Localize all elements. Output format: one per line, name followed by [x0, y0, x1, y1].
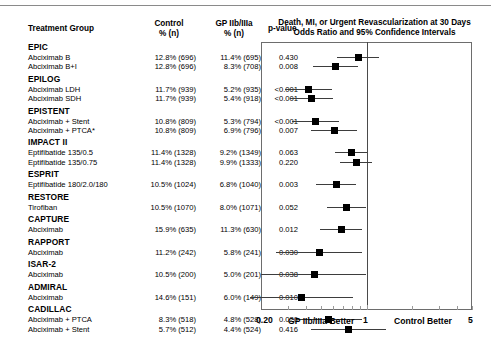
gp-value: 6.8% (1040): [199, 180, 261, 189]
column-header-control-line1: Control: [138, 19, 200, 29]
axis-tick: [288, 306, 289, 310]
axis-label-gp-better: GP IIb/IIIa Better: [288, 316, 354, 326]
column-header-control: Control % (n): [138, 19, 200, 38]
axis-tick: [472, 306, 473, 310]
control-value: 10.5% (200): [134, 270, 196, 279]
trial-name: EPIC: [28, 42, 48, 52]
trial-name: ISAR-2: [28, 259, 56, 269]
control-value: 10.5% (1024): [134, 180, 196, 189]
axis-tick: [321, 306, 322, 310]
arm-label: Tirofiban: [28, 203, 57, 212]
axis-tick: [343, 306, 344, 310]
plot-title-line2: Odds Ratio and 95% Confidence Intervals: [258, 28, 491, 38]
plot-title-line1: Death, MI, or Urgent Revascularization a…: [258, 18, 491, 28]
arm-label: Abciximab + PTCA*: [28, 126, 95, 135]
odds-ratio-marker: [333, 181, 340, 188]
trial-name: CAPTURE: [28, 214, 69, 224]
arm-label: Abciximab LDH: [28, 85, 80, 94]
odds-ratio-marker: [298, 294, 305, 301]
trial-name: ESPRIT: [28, 169, 59, 179]
control-value: 12.8% (696): [134, 53, 196, 62]
axis-tick: [457, 306, 458, 310]
odds-ratio-marker: [316, 249, 323, 256]
axis-tick: [360, 306, 361, 310]
arm-label: Abciximab: [28, 225, 63, 234]
arm-label: Eptifibatide 135/0.5: [28, 148, 93, 157]
trial-name: EPILOG: [28, 74, 60, 84]
trial-name: RAPPORT: [28, 237, 70, 247]
gp-value: 5.8% (241): [199, 248, 261, 257]
axis-tick: [352, 306, 353, 310]
column-header-gp-line2: % (n): [203, 29, 265, 39]
gp-value: 5.0% (201): [199, 270, 261, 279]
gp-value: 5.2% (935): [199, 85, 261, 94]
axis-tick-max: 5: [468, 315, 473, 325]
axis-tick: [333, 306, 334, 310]
odds-ratio-marker: [311, 271, 318, 278]
gp-value: 9.2% (1349): [199, 148, 261, 157]
odds-ratio-marker: [338, 226, 345, 233]
control-value: 11.4% (1328): [134, 148, 196, 157]
axis-tick: [439, 306, 440, 310]
control-value: 10.5% (1070): [134, 203, 196, 212]
arm-label: Abciximab B: [28, 53, 70, 62]
column-header-treatment-group: Treatment Group: [28, 24, 138, 34]
trial-name: IMPACT II: [28, 137, 67, 147]
gp-value: 9.9% (1333): [199, 158, 261, 167]
x-axis: 0.20 GP IIb/IIIa Better 1 Control Better…: [0, 312, 491, 332]
gp-value: 8.0% (1071): [199, 203, 261, 212]
odds-ratio-marker: [343, 204, 350, 211]
trial-name: EPISTENT: [28, 106, 70, 116]
column-header-gp-line1: GP IIb/IIIa: [203, 19, 265, 29]
control-value: 10.8% (809): [134, 126, 196, 135]
odds-ratio-marker: [305, 86, 312, 93]
column-header-control-line2: % (n): [138, 29, 200, 39]
control-value: 15.9% (635): [134, 225, 196, 234]
control-value: 11.7% (939): [134, 85, 196, 94]
trial-name: ADMIRAL: [28, 282, 67, 292]
gp-value: 6.9% (796): [199, 126, 261, 135]
control-value: 11.7% (939): [134, 94, 196, 103]
gp-value: 11.3% (630): [199, 225, 261, 234]
odds-ratio-marker: [332, 63, 339, 70]
odds-ratio-marker: [312, 118, 319, 125]
gp-value: 5.3% (794): [199, 117, 261, 126]
top-rule: [0, 5, 491, 6]
study-table: EPICAbciximab B12.8% (696)11.4% (695)0.4…: [0, 42, 261, 310]
arm-label: Abciximab: [28, 293, 63, 302]
odds-ratio-marker: [348, 149, 355, 156]
arm-label: Eptifibatide 180/2.0/180: [28, 180, 108, 189]
odds-ratio-marker: [355, 54, 362, 61]
trial-name: RESTORE: [28, 192, 69, 202]
plot-title: Death, MI, or Urgent Revascularization a…: [258, 18, 491, 38]
arm-label: Eptifibatide 135/0.75: [28, 158, 97, 167]
forest-plot-area: [261, 42, 472, 310]
null-effect-line: [367, 42, 368, 310]
odds-ratio-marker: [353, 159, 360, 166]
forest-plot-figure: Treatment Group Control % (n) GP IIb/III…: [0, 0, 491, 344]
control-value: 10.8% (809): [134, 117, 196, 126]
axis-tick: [367, 305, 368, 310]
control-value: 11.2% (242): [134, 248, 196, 257]
axis-tick: [306, 306, 307, 310]
arm-label: Abciximab B+I: [28, 62, 77, 71]
column-header-gp-iibiiia: GP IIb/IIIa % (n): [203, 19, 265, 38]
odds-ratio-marker: [308, 95, 315, 102]
arm-label: Abciximab SDH: [28, 94, 81, 103]
control-value: 12.8% (696): [134, 62, 196, 71]
gp-value: 11.4% (695): [199, 53, 261, 62]
control-value: 11.4% (1328): [134, 158, 196, 167]
arm-label: Abciximab: [28, 248, 63, 257]
arm-label: Abciximab: [28, 270, 63, 279]
odds-ratio-marker: [331, 127, 338, 134]
gp-value: 8.3% (708): [199, 62, 261, 71]
axis-label-control-better: Control Better: [394, 316, 452, 326]
axis-tick-min: 0.20: [256, 315, 273, 325]
control-value: 14.6% (151): [134, 293, 196, 302]
gp-value: 5.4% (918): [199, 94, 261, 103]
axis-tick: [412, 306, 413, 310]
arm-label: Abciximab + Stent: [28, 117, 89, 126]
axis-tick-null: 1: [363, 315, 368, 325]
